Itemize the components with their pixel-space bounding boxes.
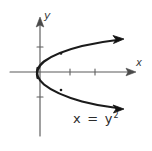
curve-point-mark [60,52,63,55]
equation-exponent: 2 [114,111,119,120]
equation-base: x = y [73,111,114,126]
parabola-figure: y x x = y2 [0,0,152,151]
figure-canvas [0,0,152,151]
y-axis-label: y [44,10,51,21]
curve-point-mark [60,89,63,92]
equation-caption: x = y2 [73,112,119,125]
parabola-lower-branch [37,68,117,108]
x-axis-label: x [136,58,142,68]
